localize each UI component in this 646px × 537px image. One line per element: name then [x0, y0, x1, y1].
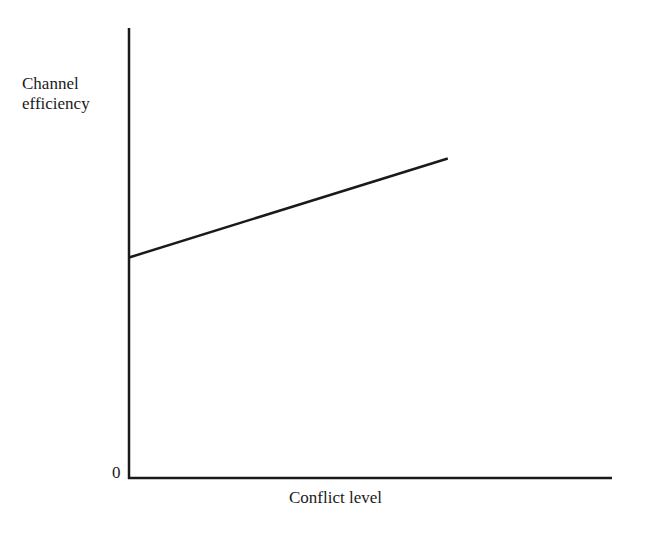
origin-label: 0	[112, 463, 121, 483]
y-axis-label-line-2: efficiency	[22, 94, 122, 114]
y-axis-label: Channel efficiency	[22, 74, 122, 114]
chart: Channel efficiency 0 Conflict level	[0, 0, 646, 537]
y-axis-label-line-1: Channel	[22, 74, 122, 94]
x-axis-label: Conflict level	[289, 488, 382, 508]
data-line	[129, 159, 448, 258]
